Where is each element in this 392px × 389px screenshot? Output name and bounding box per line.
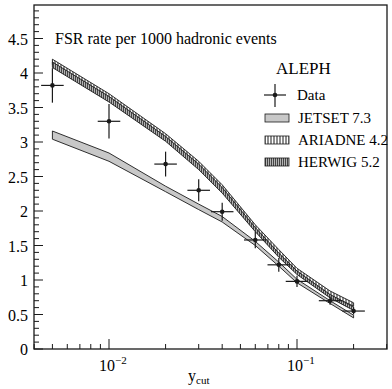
x-axis-ticks: 10−210−1: [34, 339, 387, 374]
data-marker-icon: [273, 93, 278, 98]
chart-title: FSR rate per 1000 hadronic events: [55, 30, 277, 48]
y-tick-label: 0: [20, 341, 28, 358]
y-tick-label: 1: [20, 272, 28, 289]
svg-text:JETSET 7.3: JETSET 7.3: [298, 110, 371, 126]
y-tick-label: 0.5: [8, 307, 28, 324]
legend-item-data: Data: [264, 84, 326, 107]
y-tick-label: 2: [20, 203, 28, 220]
y-axis-ticks: 00.511.522.533.544.5: [8, 11, 43, 358]
legend-item-herwig: HERWIG 5.2: [265, 154, 380, 170]
jetset-swatch-icon: [265, 114, 289, 122]
legend-item-jetset: JETSET 7.3: [265, 110, 371, 126]
herwig-swatch-icon: [265, 158, 289, 166]
y-tick-label: 4: [20, 65, 28, 82]
legend-item-ariadne: ARIADNE 4.2: [265, 132, 388, 148]
data-point: [41, 68, 64, 103]
fsr-rate-chart: 00.511.522.533.544.5 10−210−1 FSR rate p…: [0, 0, 392, 389]
data-point: [154, 152, 177, 177]
x-tick-label: 10−2: [99, 354, 127, 374]
legend-header: ALEPH: [276, 59, 331, 78]
y-tick-label: 4.5: [8, 31, 28, 48]
data-point: [98, 104, 121, 139]
svg-text:ARIADNE 4.2: ARIADNE 4.2: [298, 132, 388, 148]
y-tick-label: 3.5: [8, 100, 28, 117]
x-axis-label: ycut: [188, 367, 209, 386]
ariadne-swatch-icon: [265, 136, 289, 144]
x-tick-label: 10−1: [287, 354, 315, 374]
y-tick-label: 2.5: [8, 169, 28, 186]
svg-text:Data: Data: [297, 87, 326, 103]
y-tick-label: 3: [20, 134, 28, 151]
legend: ALEPH Data JETSET 7.3 ARIADNE 4.2 HERWIG…: [264, 59, 388, 170]
svg-text:HERWIG 5.2: HERWIG 5.2: [298, 154, 380, 170]
data-point: [187, 179, 210, 201]
y-tick-label: 1.5: [8, 238, 28, 255]
data-points: [41, 68, 365, 314]
